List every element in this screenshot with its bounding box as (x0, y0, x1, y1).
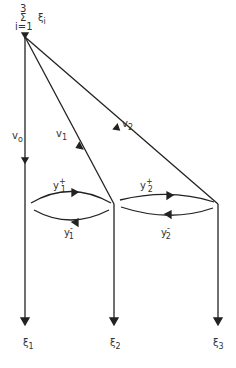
label-y2-minus: y-2 (161, 228, 171, 238)
sum-lower-limit: i=1 (15, 22, 33, 32)
edge-y1-plus (31, 192, 111, 204)
label-y1-plus: y+1 (53, 181, 66, 191)
source-label: ξi (38, 13, 46, 23)
label-v2: v2 (122, 119, 133, 129)
edge-v1 (25, 37, 114, 204)
flow-network-diagram (0, 0, 236, 368)
label-v0: vo (12, 131, 23, 141)
sink-xi3: ξ3 (213, 338, 224, 348)
label-y2-plus: y+2 (140, 181, 153, 191)
label-y1-minus: y-1 (64, 228, 74, 238)
label-v1: v1 (56, 129, 67, 139)
sink-xi1: ξ1 (23, 338, 34, 348)
sink-xi2: ξ2 (110, 338, 121, 348)
edge-y1-minus (34, 210, 109, 220)
